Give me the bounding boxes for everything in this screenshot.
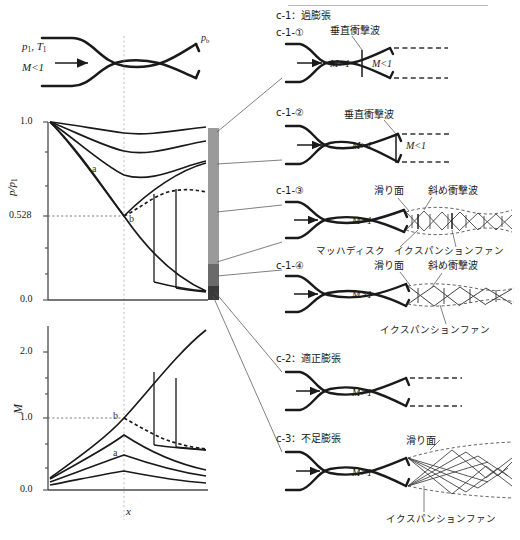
panel-c3-slip-label: 滑り面	[406, 436, 436, 446]
panel-c1-2-flow-out: M<1	[406, 141, 426, 151]
panel-c1-1-flow-out: M<1	[372, 59, 392, 69]
top-nozzle-schematic	[42, 38, 199, 86]
m-axis-ticks	[43, 352, 48, 490]
panel-c1-3-mach-disks	[418, 213, 452, 229]
panel-c1-4-fan-label: イクスパンションファン	[380, 325, 490, 335]
p-ytick-1: 1.0	[20, 116, 33, 126]
panel-c1-heading: c-1：過膨張	[276, 11, 331, 21]
panel-c1-3-fan-label: イクスパンションファン	[394, 246, 504, 256]
panel-c1-4-flow-in: M>1	[352, 290, 372, 300]
p-curve-shock-branch	[124, 190, 206, 216]
inlet-mach-rel: <1	[31, 61, 44, 73]
inlet-stagnation-label: p1, T1	[22, 41, 46, 54]
panel-c1-2-shock-leader	[384, 120, 396, 134]
nozzle-exit-lip-lower	[196, 71, 199, 78]
pressure-curves	[50, 122, 206, 291]
panel-c1-4-case: c-1-④	[276, 261, 304, 271]
panel-c1-1-shock-leader	[352, 36, 362, 50]
panel-c3-flow-in: M>1	[352, 468, 372, 478]
panel-c1-3-machdisk-label: マッハディスク	[316, 246, 385, 256]
m-point-b: b	[113, 411, 118, 421]
inlet-mach-M: M	[22, 61, 31, 73]
m-curve-subsonic-2-a	[50, 455, 206, 482]
panel-c1-1-case: c-1-①	[276, 28, 304, 38]
panel-c1-1-shock-label: 垂直衝撃波	[330, 26, 380, 36]
panel-c1-4-shock-diamonds	[408, 286, 512, 306]
panel-c1-1-flow-in: M>1	[330, 59, 350, 69]
panel-c1-3-slip-label: 滑り面	[374, 186, 404, 196]
p-point-b: b	[129, 214, 134, 224]
nozzle-flow-figure: p1, T1 M<1 pb p/p1 1.0 0.528 0.0 a b M 2…	[0, 0, 520, 540]
panel-c1-3-oblique-label: 斜め衝撃波	[428, 186, 478, 196]
p-point-a: a	[92, 164, 96, 174]
panel-c1-3-case: c-1-③	[276, 186, 304, 196]
p-curve-critical-b-sub	[50, 122, 206, 216]
p-ytick-2: 0.528	[9, 210, 32, 220]
panel-c1-3-leaders	[398, 197, 456, 247]
mach-x-axis-label: x	[126, 506, 131, 517]
m-point-a: a	[113, 448, 117, 458]
m-curve-shock-branch	[124, 418, 206, 449]
exit-pressure-band-mid	[208, 264, 219, 286]
m-ytick-2: 1.0	[20, 412, 33, 422]
mach-curves	[50, 330, 206, 485]
pressure-axis-label: p/p1	[6, 178, 19, 196]
nozzle-exit-lip-upper	[196, 44, 199, 51]
panel-c1-3-flow-in: M>1	[352, 216, 372, 226]
panel-c2-flow-in: M>1	[352, 388, 372, 398]
p-axis-ticks	[43, 122, 48, 300]
panel-c3-expansion-fan	[408, 450, 512, 494]
panel-c1-1-exit-dashed	[394, 48, 448, 78]
panel-c2-heading: c-2：適正膨張	[276, 354, 341, 364]
back-pressure-label: pb	[201, 33, 209, 44]
p-ytick-3: 0.0	[20, 294, 33, 304]
panel-c1-2-shock-label: 垂直衝撃波	[344, 110, 394, 120]
panel-c2-exit-dashed	[410, 378, 462, 406]
exit-pressure-band-gray	[208, 128, 219, 264]
panel-c1-4-oblique-label: 斜め衝撃波	[428, 261, 478, 271]
panel-c3-heading: c-3：不足膨張	[276, 434, 341, 444]
panel-c1-2-flow-in: M>1	[352, 141, 372, 151]
panel-c1-4-slip-label: 滑り面	[374, 261, 404, 271]
panel-c1-2-case: c-1-②	[276, 108, 304, 118]
panel-c3-fan-label: イクスパンションファン	[386, 514, 496, 524]
inlet-mach-label: M<1	[22, 62, 44, 73]
connector-lines	[213, 78, 282, 452]
m-ytick-3: 2.0	[20, 346, 33, 356]
m-ytick-1: 0.0	[20, 484, 33, 494]
